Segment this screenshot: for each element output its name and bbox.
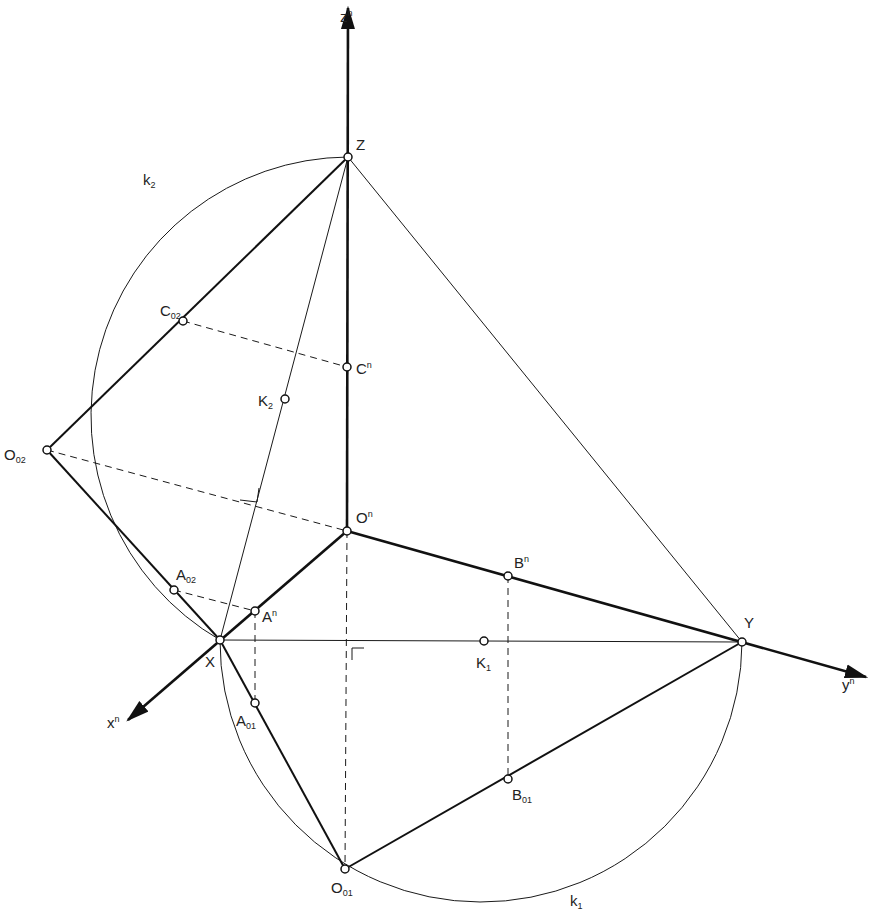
point-B01 <box>504 775 512 783</box>
label-B01: B01 <box>512 786 532 805</box>
circle-k1 <box>220 640 742 902</box>
right-angle-mark <box>240 488 259 502</box>
label-On: On <box>356 509 373 526</box>
label-Bn: Bn <box>514 554 529 571</box>
point-Bn <box>504 572 512 580</box>
label-O02: O02 <box>4 446 26 465</box>
point-K1 <box>480 637 488 645</box>
point-On <box>343 527 351 535</box>
label-K2: K2 <box>258 392 273 411</box>
point-Cn <box>343 363 351 371</box>
axonometry-diagram: zn yn xn k2 k1 Z X Y On Cn An Bn K1 K2 O… <box>0 0 891 917</box>
label-Z: Z <box>356 136 365 153</box>
dash-On-O01 <box>345 531 347 869</box>
point-A02 <box>170 586 178 594</box>
line-O02-Z <box>47 157 348 450</box>
label-A02: A02 <box>176 566 196 585</box>
label-axis-x: xn <box>107 714 120 731</box>
dash-O02-On <box>47 450 347 531</box>
point-O01 <box>341 865 349 873</box>
label-An: An <box>262 608 277 625</box>
label-C02: C02 <box>160 302 181 321</box>
line-ZY <box>348 157 742 642</box>
axis-z <box>347 8 348 531</box>
label-axis-y: yn <box>842 676 855 693</box>
line-O01-Y <box>345 642 742 869</box>
point-K2 <box>281 395 289 403</box>
point-An <box>251 607 259 615</box>
label-k2: k2 <box>143 171 156 190</box>
label-X: X <box>205 653 215 670</box>
line-O01-X <box>220 640 345 869</box>
label-O01: O01 <box>331 879 353 898</box>
circle-k2 <box>91 157 348 640</box>
label-k1: k1 <box>570 892 583 911</box>
point-X <box>216 636 224 644</box>
point-Z <box>344 153 352 161</box>
axis-y <box>347 531 866 677</box>
dash-C02-Cn <box>183 321 347 367</box>
label-A01: A01 <box>236 712 256 731</box>
label-K1: K1 <box>476 654 491 673</box>
point-Y <box>738 638 746 646</box>
label-axis-z: zn <box>340 8 353 25</box>
right-angle-mark <box>352 648 364 660</box>
point-O02 <box>43 446 51 454</box>
point-A01 <box>251 699 259 707</box>
dash-A02-An <box>174 590 255 611</box>
label-Cn: Cn <box>356 360 372 377</box>
label-Y: Y <box>744 614 754 631</box>
line-O02-X <box>47 450 220 640</box>
axis-x <box>128 531 347 720</box>
